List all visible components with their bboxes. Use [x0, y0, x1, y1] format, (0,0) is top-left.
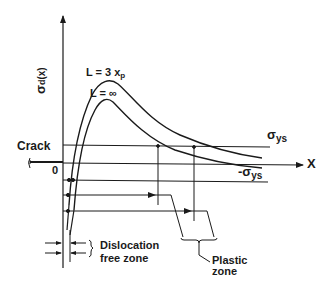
curve-l-infinity — [74, 99, 262, 210]
negative-yield-stress-label: -σys — [238, 165, 262, 178]
negative-yield-stress-line — [63, 180, 268, 182]
plastic-zone-label: Plastic zone — [212, 255, 247, 277]
curve-l-3xp — [69, 81, 262, 205]
x-axis — [63, 163, 303, 165]
curve-label-l-infinity: L = ∞ — [90, 88, 117, 99]
yield-stress-label: σys — [267, 128, 287, 141]
curve-label-l-3xp: L = 3 xp — [86, 67, 125, 78]
dislocation-stress-diagram: σd(x) L = 3 xp L = ∞ σys -σys X 0 Crack … — [0, 0, 333, 284]
y-axis-label: σd(x) — [34, 67, 47, 94]
plastic-zone-brace — [181, 238, 217, 243]
x-axis-label: X — [307, 157, 316, 170]
dislocation-zone-brace — [89, 240, 93, 257]
crack-label: Crack — [17, 140, 50, 152]
dislocation-free-zone-label: Dislocation free zone — [100, 239, 159, 265]
origin-label: 0 — [52, 165, 58, 176]
